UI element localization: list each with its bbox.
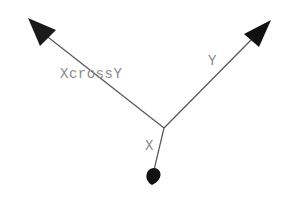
y-vector <box>164 20 271 128</box>
y-label: Y <box>208 54 216 68</box>
y-shaft <box>164 37 254 128</box>
x-label: X <box>145 139 153 153</box>
xcrossy-arrowhead-icon <box>28 18 56 46</box>
vector-diagram: XcrossY Y X <box>0 0 290 198</box>
x-vector <box>146 128 164 185</box>
x-shaft <box>154 128 164 170</box>
xcrossy-label: XcrossY <box>60 67 122 81</box>
diagram-canvas <box>0 0 290 198</box>
x-arrowhead-icon <box>146 168 160 185</box>
